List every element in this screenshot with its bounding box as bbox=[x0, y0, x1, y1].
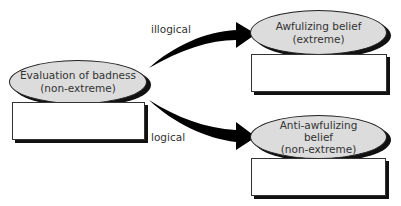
anti-awfulizing-ellipse: Anti-awfulizing belief (non-extreme) bbox=[250, 115, 387, 159]
source-node-line1: Evaluation of badness bbox=[20, 69, 136, 82]
awfulizing-empty-box bbox=[251, 54, 387, 92]
anti-awfulizing-node-line1: Anti-awfulizing bbox=[280, 119, 358, 131]
anti-awfulizing-node-line3: (non-extreme) bbox=[281, 143, 357, 155]
anti-awfulizing-node-line2: belief bbox=[304, 131, 333, 143]
logical-label: logical bbox=[151, 131, 185, 143]
source-empty-box bbox=[12, 102, 145, 140]
awfulizing-node-line2: (extreme) bbox=[292, 33, 344, 46]
awfulizing-node-line1: Awfulizing belief bbox=[276, 20, 362, 33]
source-node-line2: (non-extreme) bbox=[40, 82, 116, 95]
awfulizing-ellipse: Awfulizing belief (extreme) bbox=[250, 10, 387, 55]
source-ellipse: Evaluation of badness (non-extreme) bbox=[9, 60, 147, 104]
illogical-label: illogical bbox=[151, 23, 191, 35]
anti-awfulizing-empty-box bbox=[251, 158, 386, 196]
diagram-canvas: Evaluation of badness (non-extreme) Awfu… bbox=[0, 0, 401, 206]
